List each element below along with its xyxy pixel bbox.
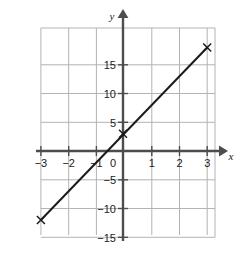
x-axis-arrow-icon — [219, 146, 228, 157]
y-axis-label: y — [109, 10, 115, 22]
x-tick-label-pos1: 1 — [149, 157, 155, 169]
y-tick-label-neg5: −5 — [103, 174, 116, 186]
grid-lines — [41, 28, 215, 237]
x-tick-label-pos3: 3 — [204, 157, 210, 169]
x-tick-label-zero: 0 — [110, 157, 116, 169]
y-tick-label-pos15: 15 — [104, 59, 116, 71]
graph-canvas: −3 −2 −1 0 1 2 3 15 10 5 −5 −10 −15 x y — [0, 0, 241, 267]
y-tick-label-neg15: −15 — [97, 232, 116, 244]
x-tick-label-pos2: 2 — [176, 157, 182, 169]
y-tick-label-neg10: −10 — [97, 203, 116, 215]
x-axis-label: x — [228, 150, 234, 162]
x-tick-label-neg3: −3 — [35, 157, 48, 169]
x-tick-label-neg2: −2 — [62, 157, 75, 169]
coordinate-graph: −3 −2 −1 0 1 2 3 15 10 5 −5 −10 −15 x y — [0, 0, 241, 267]
y-tick-label-pos10: 10 — [104, 88, 116, 100]
y-tick-label-pos5: 5 — [110, 117, 116, 129]
y-axis-arrow-icon — [118, 9, 129, 18]
x-tick-label-neg1: −1 — [90, 157, 103, 169]
